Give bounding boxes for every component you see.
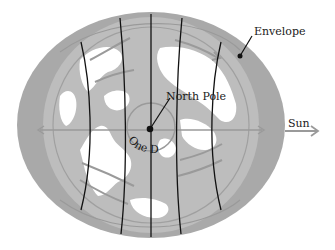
envelope-diagram: North Pole One Day Envelope Sun (0, 0, 335, 250)
north-pole-label: North Pole (166, 90, 226, 103)
sun-label: Sun (288, 117, 310, 130)
envelope-pointer-dot (238, 54, 243, 59)
north-pole-dot (147, 126, 154, 133)
envelope-label: Envelope (254, 25, 306, 38)
